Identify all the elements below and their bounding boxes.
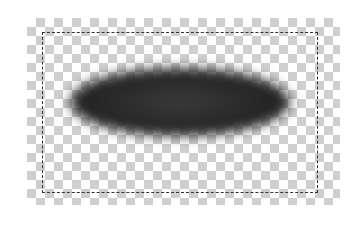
selection-marquee[interactable] xyxy=(42,32,318,193)
